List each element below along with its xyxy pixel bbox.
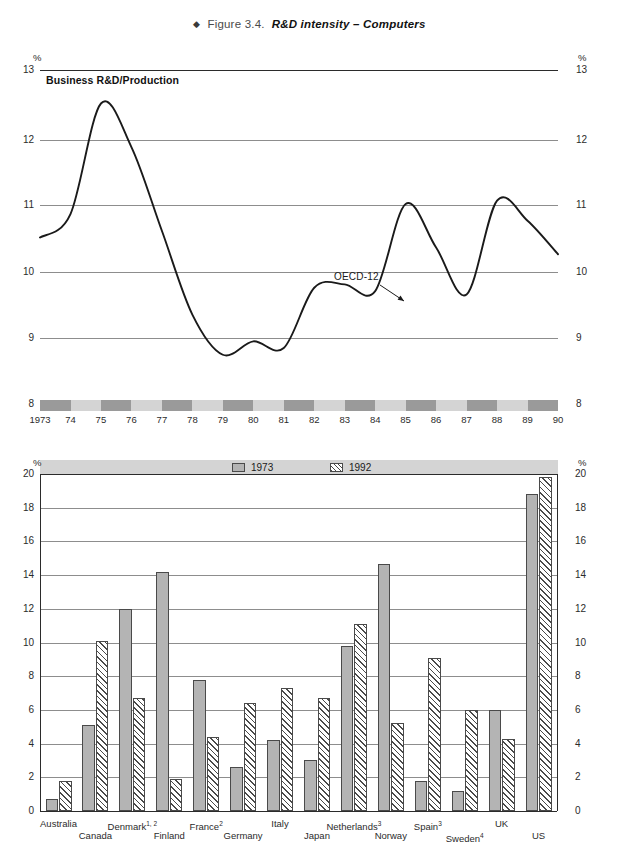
bar-ytick-right-8: 8 bbox=[575, 671, 599, 681]
bar-france-1992 bbox=[207, 737, 220, 811]
bar-gridline-6 bbox=[40, 710, 557, 711]
bar-ytick-right-16: 16 bbox=[575, 536, 599, 546]
category-label-germany: Germany bbox=[224, 831, 263, 841]
figure-title-row: ◆ Figure 3.4. R&D intensity – Computers bbox=[0, 18, 619, 30]
category-label-italy: Italy bbox=[271, 819, 288, 829]
bar-australia-1992 bbox=[59, 781, 72, 811]
bar-axis-left bbox=[40, 474, 41, 811]
bar-canada-1973 bbox=[82, 725, 95, 811]
bar-spain-1992 bbox=[428, 658, 441, 811]
bar-denmark-1973 bbox=[119, 609, 132, 811]
bar-ytick-left-4: 4 bbox=[14, 739, 34, 749]
bar-unit-left: % bbox=[33, 458, 41, 467]
bar-ytick-left-16: 16 bbox=[14, 536, 34, 546]
bar-gridline-14 bbox=[40, 575, 557, 576]
bar-sweden-1973 bbox=[452, 791, 465, 811]
legend-band bbox=[40, 460, 558, 474]
year-band-segment bbox=[40, 400, 71, 411]
bar-netherlands-1973 bbox=[341, 646, 354, 811]
bullet-diamond-icon: ◆ bbox=[193, 20, 200, 29]
bar-netherlands-1992 bbox=[354, 624, 367, 811]
legend-label-1992: 1992 bbox=[349, 462, 371, 473]
x-axis-tick-81: 81 bbox=[268, 415, 300, 425]
bar-ytick-left-2: 2 bbox=[14, 772, 34, 782]
legend-item-1992[interactable]: 1992 bbox=[330, 462, 371, 473]
page-title: R&D intensity – Computers bbox=[272, 18, 426, 30]
category-label-canada: Canada bbox=[79, 831, 112, 841]
legend-label-1973: 1973 bbox=[251, 462, 273, 473]
legend-swatch-1992-icon bbox=[330, 463, 343, 472]
bar-canada-1992 bbox=[96, 641, 109, 811]
bar-gridline-4 bbox=[40, 744, 557, 745]
bar-ytick-right-20: 20 bbox=[575, 469, 599, 479]
year-band-segment bbox=[223, 400, 254, 411]
x-axis-tick-76: 76 bbox=[115, 415, 147, 425]
category-label-spain: Spain3 bbox=[414, 819, 442, 832]
oecd12-annotation-label: OECD-12 bbox=[334, 271, 379, 282]
category-label-france: France2 bbox=[190, 819, 223, 832]
bar-uk-1973 bbox=[489, 710, 502, 811]
bar-ytick-left-8: 8 bbox=[14, 671, 34, 681]
bar-norway-1973 bbox=[378, 564, 391, 811]
bar-germany-1992 bbox=[244, 703, 257, 811]
x-axis-tick-83: 83 bbox=[329, 415, 361, 425]
x-axis-tick-79: 79 bbox=[207, 415, 239, 425]
bar-us-1992 bbox=[539, 477, 552, 811]
bar-sweden-1992 bbox=[465, 710, 478, 811]
bar-ytick-left-14: 14 bbox=[14, 570, 34, 580]
bar-unit-right: % bbox=[578, 458, 586, 467]
bar-italy-1973 bbox=[267, 740, 280, 811]
x-axis-tick-77: 77 bbox=[146, 415, 178, 425]
bar-spain-1973 bbox=[415, 781, 428, 811]
x-axis-tick-89: 89 bbox=[512, 415, 544, 425]
bar-germany-1973 bbox=[230, 767, 243, 811]
bar-ytick-right-4: 4 bbox=[575, 739, 599, 749]
year-band-segment bbox=[101, 400, 132, 411]
bar-us-1973 bbox=[526, 494, 539, 811]
bar-france-1973 bbox=[193, 680, 206, 811]
category-label-sweden: Sweden4 bbox=[446, 831, 484, 844]
x-axis-tick-75: 75 bbox=[85, 415, 117, 425]
bar-ytick-right-10: 10 bbox=[575, 638, 599, 648]
bar-norway-1992 bbox=[391, 723, 404, 811]
bar-gridline-20 bbox=[40, 474, 557, 475]
bar-gridline-12 bbox=[40, 609, 557, 610]
bar-ytick-right-6: 6 bbox=[575, 705, 599, 715]
bar-ytick-left-0: 0 bbox=[14, 806, 34, 816]
bar-gridline-0 bbox=[40, 811, 557, 812]
year-band-segment bbox=[467, 400, 498, 411]
bar-ytick-right-2: 2 bbox=[575, 772, 599, 782]
x-axis-tick-82: 82 bbox=[298, 415, 330, 425]
category-label-us: US bbox=[532, 831, 545, 841]
x-axis-tick-1973: 1973 bbox=[24, 415, 56, 425]
figure-number-label: Figure 3.4. bbox=[207, 18, 264, 30]
bar-ytick-right-0: 0 bbox=[575, 806, 599, 816]
bar-japan-1973 bbox=[304, 760, 317, 811]
category-label-netherlands: Netherlands3 bbox=[326, 819, 381, 832]
category-label-japan: Japan bbox=[304, 831, 330, 841]
bar-ytick-right-14: 14 bbox=[575, 570, 599, 580]
x-axis-tick-85: 85 bbox=[390, 415, 422, 425]
bar-ytick-left-6: 6 bbox=[14, 705, 34, 715]
bar-axis-right bbox=[557, 474, 558, 811]
bar-finland-1992 bbox=[170, 779, 183, 811]
bar-chart: % % 1973 1992 20201818161614141212101088… bbox=[0, 450, 619, 857]
bar-denmark-1992 bbox=[133, 698, 146, 811]
bar-japan-1992 bbox=[318, 698, 331, 811]
figure-page: ◆ Figure 3.4. R&D intensity – Computers … bbox=[0, 0, 619, 857]
category-label-finland: Finland bbox=[154, 831, 185, 841]
category-label-uk: UK bbox=[495, 819, 508, 829]
x-axis-tick-90: 90 bbox=[542, 415, 574, 425]
bar-gridline-10 bbox=[40, 643, 557, 644]
bar-ytick-left-10: 10 bbox=[14, 638, 34, 648]
x-axis-tick-84: 84 bbox=[359, 415, 391, 425]
bar-ytick-right-18: 18 bbox=[575, 503, 599, 513]
legend-item-1973[interactable]: 1973 bbox=[232, 462, 273, 473]
category-label-australia: Australia bbox=[40, 819, 77, 829]
bar-ytick-right-12: 12 bbox=[575, 604, 599, 614]
line-chart: % % 13 13 12 12 11 11 10 10 9 9 8 8 OECD… bbox=[0, 45, 619, 420]
oecd12-line-series bbox=[0, 45, 619, 420]
x-axis-tick-87: 87 bbox=[451, 415, 483, 425]
year-band bbox=[40, 400, 558, 411]
year-band-segment bbox=[162, 400, 193, 411]
